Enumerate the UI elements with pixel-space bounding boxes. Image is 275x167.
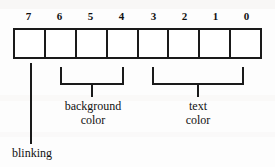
bit-cell-3 [139, 30, 170, 57]
bit-number-7: 7 [13, 9, 44, 23]
text-color-label-line1: text [160, 99, 236, 113]
bit-number-0: 0 [231, 9, 262, 23]
background-color-label: background color [46, 99, 140, 127]
background-color-bracket [60, 67, 124, 85]
background-color-label-line1: background [46, 99, 140, 113]
bit-number-1: 1 [200, 9, 231, 23]
bit-cell-0 [231, 30, 260, 57]
bit-cell-6 [46, 30, 77, 57]
text-color-bracket-stem [197, 85, 199, 97]
bit-cell-4 [108, 30, 139, 57]
scan-noise-band [0, 132, 275, 137]
bit-number-4: 4 [106, 9, 137, 23]
bit-number-3: 3 [138, 9, 169, 23]
bit-cell-1 [200, 30, 231, 57]
bit-cell-2 [169, 30, 200, 57]
background-color-bracket-stem [91, 85, 93, 97]
bit-cell-7 [15, 30, 46, 57]
byte-box [13, 28, 262, 59]
text-color-bracket [152, 67, 244, 85]
text-color-label-line2: color [160, 113, 236, 127]
bit-number-2: 2 [169, 9, 200, 23]
bit-number-5: 5 [75, 9, 106, 23]
bit-number-6: 6 [44, 9, 75, 23]
blinking-label: blinking [12, 146, 52, 160]
background-color-label-line2: color [46, 113, 140, 127]
text-color-label: text color [160, 99, 236, 127]
blinking-leader-line [30, 63, 32, 144]
scan-noise-band [0, 0, 275, 9]
bit-cell-5 [77, 30, 108, 57]
bit-field-diagram: 7 6 5 4 3 2 1 0 blinking background colo… [0, 0, 275, 167]
